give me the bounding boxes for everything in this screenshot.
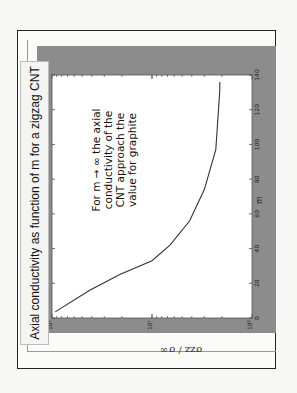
m-tick-label: 20	[253, 279, 260, 287]
m-tick-label: 40	[253, 245, 260, 253]
y-axis-label: σzz / σ∞	[160, 345, 202, 356]
annotation-line: conductivity of the	[102, 111, 114, 209]
m-tick-label: 0	[253, 316, 260, 320]
m-tick-label: 140	[253, 69, 260, 81]
log-tick-label: 101	[146, 319, 153, 330]
annotation-line: For m → ∞ the axial	[90, 108, 102, 211]
chart-title: Axial conductivity as function of m for …	[28, 66, 42, 339]
annotation-text: For m → ∞ the axialconductivity of theCN…	[90, 108, 138, 211]
x-axis-label: m	[255, 196, 264, 204]
annotation-line: value for graphite	[126, 113, 138, 207]
plot-area	[52, 75, 252, 318]
annotation-line: CNT approach the	[114, 113, 126, 208]
log-tick-label: 100	[246, 319, 253, 330]
title-box: Axial conductivity as function of m for …	[20, 61, 49, 345]
m-tick-label: 120	[253, 104, 260, 116]
m-tick-label: 100	[253, 139, 260, 151]
m-tick-label: 80	[253, 175, 260, 183]
m-tick-label: 60	[253, 210, 260, 218]
